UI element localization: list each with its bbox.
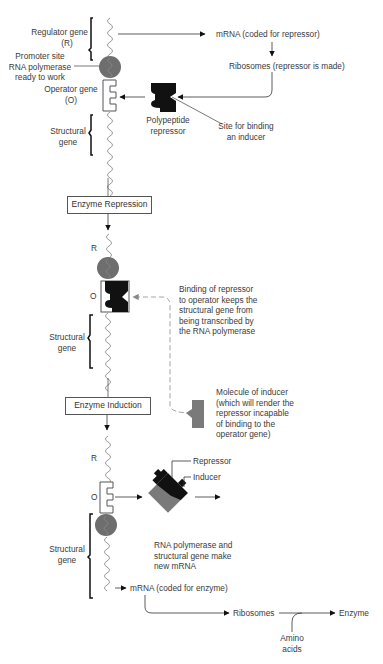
site-binding-label: Site for binding an inducer <box>213 121 279 142</box>
rna-note-line: new mRNA <box>154 561 232 572</box>
an-inducer-text: an inducer <box>213 132 279 143</box>
amino-acids-label: Amino acids <box>276 633 308 654</box>
structural-gene-text: Structural <box>45 126 91 137</box>
binding-note-line: Binding of repressor <box>179 284 257 295</box>
acids-text: acids <box>276 644 308 655</box>
inducer-note-line: Molecule of inducer <box>216 387 294 398</box>
promoter-site-label: Promoter site RNA polymerase ready to wo… <box>6 51 74 83</box>
operator-gene-shape-3 <box>100 482 113 513</box>
polypeptide-text: Polypeptide <box>140 115 196 126</box>
structural-gene-text: Structural <box>45 544 89 555</box>
regulator-gene-label: Regulator gene (R) <box>18 27 88 48</box>
inducer-molecule-shape <box>186 400 204 428</box>
r-label-2: R <box>91 243 97 254</box>
dashed-arrow <box>170 114 200 413</box>
enzyme-induction-box: Enzyme Induction <box>65 397 151 415</box>
structural-gene-label-2: Structural gene <box>45 332 89 353</box>
structural-gene-text-2: gene <box>45 555 89 566</box>
ready-to-work-text: ready to work <box>6 72 74 83</box>
rna-polymerase-circle-3 <box>95 514 117 536</box>
enzyme-repression-box: Enzyme Repression <box>67 196 152 214</box>
binding-note-line: structural gene from <box>179 305 257 316</box>
regulator-gene-text: Regulator gene <box>18 27 88 38</box>
binding-note-line: the RNA polymerase <box>179 326 257 337</box>
promoter-site-text: Promoter site <box>6 51 74 62</box>
regulator-gene-abbr: (R) <box>18 38 88 49</box>
binding-note-line: to operator keeps the <box>179 295 257 306</box>
repressor-label: Repressor <box>193 456 231 467</box>
repressor-text: repressor <box>140 126 196 137</box>
operator-gene-text: Operator gene <box>40 84 102 95</box>
inducer-note-line: of binding to the <box>216 419 294 430</box>
brace-regulator <box>89 18 93 60</box>
inducer-note-line: (which will render the <box>216 398 294 409</box>
o-label-3: O <box>91 492 97 503</box>
operator-gene-abbr: (O) <box>40 95 102 106</box>
r-label-3: R <box>91 453 97 464</box>
rna-note-line: RNA polymerase and <box>154 540 232 551</box>
polypeptide-repressor-label: Polypeptide repressor <box>140 115 196 136</box>
binding-note-line: being transcribed by <box>179 316 257 327</box>
operator-gene-label: Operator gene (O) <box>40 84 102 105</box>
rna-polymerase-text: RNA polymerase <box>6 62 74 73</box>
inducer-note-line: operator gene) <box>216 429 294 440</box>
rna-polymerase-circle-2 <box>97 257 119 279</box>
dna-strand-structural-3 <box>105 537 110 591</box>
inducer-note-line: repressor incapable <box>216 408 294 419</box>
dna-strand-regulator-3 <box>106 436 111 484</box>
ribosomes-repressor-label: Ribosomes (repressor is made) <box>229 61 345 72</box>
amino-text: Amino <box>276 633 308 644</box>
binding-note: Binding of repressor to operator keeps t… <box>179 284 257 337</box>
structural-gene-text-2: gene <box>45 343 89 354</box>
inducer-label: Inducer <box>193 472 221 483</box>
inducer-note: Molecule of inducer (which will render t… <box>216 387 294 440</box>
enzyme-label: Enzyme <box>339 608 369 619</box>
rna-polymerase-circle <box>99 56 121 78</box>
mrna-enzyme-label: mRNA (coded for enzyme) <box>130 583 228 594</box>
structural-gene-text: Structural <box>45 332 89 343</box>
structural-gene-label-3: Structural gene <box>45 544 89 565</box>
structural-gene-label: Structural gene <box>45 126 91 147</box>
repressor-inducer-complex <box>141 462 192 513</box>
o-label-2: O <box>90 291 96 302</box>
mrna-repressor-label: mRNA (coded for repressor) <box>216 29 320 40</box>
rna-note: RNA polymerase and structural gene make … <box>154 540 232 572</box>
ribosomes-label: Ribosomes <box>233 608 275 619</box>
operator-gene-shape <box>103 80 116 111</box>
rna-note-line: structural gene make <box>154 551 232 562</box>
structural-gene-text-2: gene <box>45 137 91 148</box>
site-binding-text: Site for binding <box>213 121 279 132</box>
